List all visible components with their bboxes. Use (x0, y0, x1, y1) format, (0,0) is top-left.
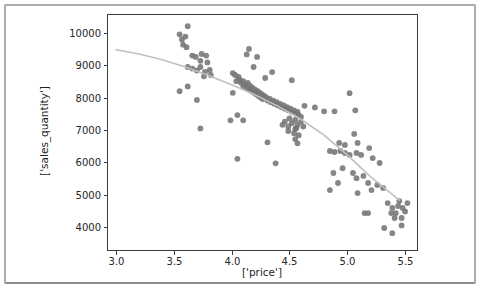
x-tick-label: 4.5 (282, 256, 298, 267)
y-axis-label: ['sales_quantity'] (38, 86, 50, 176)
data-point (351, 131, 357, 137)
data-point (289, 77, 295, 83)
data-point (292, 136, 298, 142)
data-point (205, 60, 211, 66)
y-tick-label: 6000 (76, 157, 101, 168)
data-point (355, 190, 361, 196)
x-tick-label: 5.5 (398, 256, 414, 267)
y-axis-ticks: 40005000600070008000900010000 (69, 28, 107, 233)
data-point (327, 187, 333, 193)
data-point (332, 108, 338, 114)
data-point (198, 64, 204, 70)
data-point (254, 54, 260, 60)
y-tick-label: 7000 (76, 125, 101, 136)
axes-spines (108, 15, 418, 251)
data-point (273, 160, 279, 166)
data-point (198, 58, 204, 64)
data-point (336, 140, 342, 146)
data-point (183, 34, 189, 40)
data-point (251, 64, 257, 70)
data-point (312, 105, 318, 111)
data-point (347, 90, 353, 96)
data-point (377, 160, 383, 166)
data-point (177, 88, 183, 94)
data-point (262, 75, 268, 81)
data-point (292, 126, 298, 132)
data-point (235, 112, 241, 118)
y-tick-label: 4000 (76, 222, 101, 233)
data-point (207, 67, 213, 73)
data-point (230, 90, 236, 96)
data-point (361, 173, 367, 179)
data-point (185, 23, 191, 29)
data-point (340, 165, 346, 171)
x-tick-label: 5.0 (340, 256, 356, 267)
data-point (350, 170, 356, 176)
data-point (269, 69, 275, 75)
x-tick-label: 3.0 (109, 256, 125, 267)
data-point (285, 128, 291, 134)
y-tick-label: 9000 (76, 60, 101, 71)
data-point (177, 31, 183, 37)
data-point (370, 155, 376, 161)
data-point (352, 107, 358, 113)
data-point (246, 46, 252, 52)
scatter-figure: 3.03.54.04.55.05.54000500060007000800090… (0, 0, 483, 294)
data-point (369, 187, 375, 193)
data-point (388, 210, 394, 216)
data-point (381, 225, 387, 231)
data-point (335, 180, 341, 186)
x-axis-label: ['price'] (242, 266, 282, 278)
data-point (342, 142, 348, 148)
data-point (366, 145, 372, 151)
data-point (355, 140, 361, 146)
data-point (184, 44, 190, 50)
data-point (365, 210, 371, 216)
data-point (399, 215, 405, 221)
data-point (392, 215, 398, 221)
data-point (399, 223, 405, 229)
data-point (203, 53, 209, 59)
data-point (265, 139, 271, 145)
data-point (389, 230, 395, 236)
data-point (365, 180, 371, 186)
data-point (300, 124, 306, 130)
y-tick-label: 5000 (76, 190, 101, 201)
data-point (358, 152, 364, 158)
data-point (244, 52, 250, 58)
y-tick-label: 10000 (69, 28, 101, 39)
data-point (331, 170, 337, 176)
data-point (354, 175, 360, 181)
data-point (194, 97, 200, 103)
data-point (402, 209, 408, 215)
data-point (240, 117, 246, 123)
data-point (235, 156, 241, 162)
data-point (332, 149, 338, 155)
data-point (389, 205, 395, 211)
data-point (198, 125, 204, 131)
data-point (302, 103, 308, 109)
data-point (385, 200, 391, 206)
x-axis-ticks: 3.03.54.04.55.05.5 (109, 251, 414, 267)
plot-canvas: 3.03.54.04.55.05.54000500060007000800090… (0, 0, 483, 294)
data-point (280, 122, 286, 128)
data-point (405, 200, 411, 206)
x-tick-label: 3.5 (167, 256, 183, 267)
data-point (228, 117, 234, 123)
data-point (185, 84, 191, 90)
scatter-points (177, 23, 411, 236)
x-tick-label: 4.0 (225, 256, 241, 267)
y-tick-label: 8000 (76, 93, 101, 104)
data-point (193, 54, 199, 60)
data-point (321, 108, 327, 114)
